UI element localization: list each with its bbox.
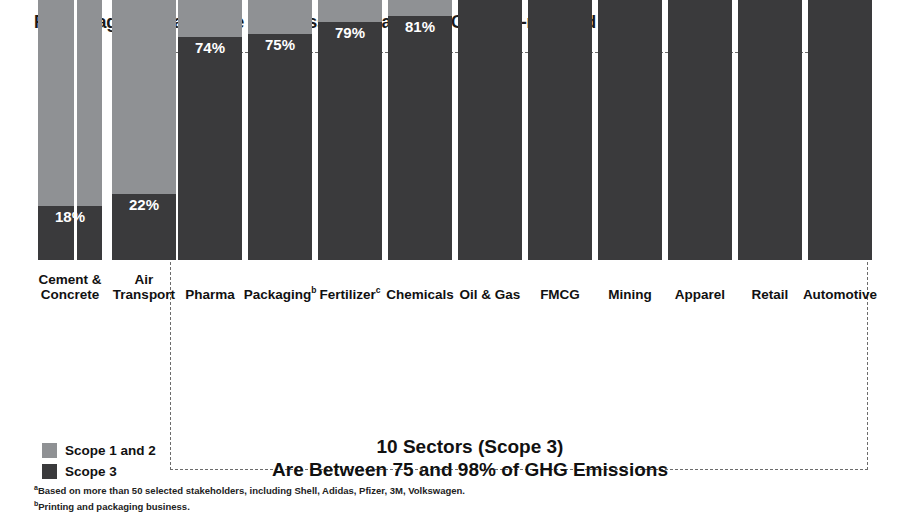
bar-value-label-scope3: 18% (38, 209, 102, 225)
legend-item-scope12: Scope 1 and 2 (42, 443, 156, 458)
bar-value-label-scope3: 75% (248, 37, 312, 53)
axis-category-label: Automotive (794, 287, 886, 302)
bar-segment-scope3: 75% (248, 34, 312, 260)
legend-label-scope12: Scope 1 and 2 (65, 443, 156, 458)
bar-column: 4%96% (738, 0, 802, 260)
bar-value-label-scope3: 92% (458, 0, 522, 2)
bar-segment-scope12: 19% (388, 0, 452, 16)
bar-column: 2%98% (808, 0, 872, 260)
bar-column: 5%95% (668, 0, 732, 260)
bar-column: 21%79% (318, 0, 382, 260)
footnote-b-text: Printing and packaging business. (38, 501, 190, 512)
highlight-annotation: 10 Sectors (Scope 3) Are Between 75 and … (200, 435, 740, 481)
bar-value-label-scope3: 22% (112, 197, 176, 213)
bar-column: 19%81% (388, 0, 452, 260)
bar-stack: 7%93% (528, 0, 592, 260)
legend-item-scope3: Scope 3 (42, 464, 156, 479)
bar-value-label-scope3: 74% (178, 40, 242, 56)
bar-segment-scope3: 74% (178, 37, 242, 260)
bar-segment-scope3: 18% (38, 206, 102, 260)
bar-stack: 19%81% (388, 0, 452, 260)
bar-segment-scope3: 79% (318, 22, 382, 260)
legend-swatch-icon-scope3 (42, 464, 57, 479)
bar-segment-scope3: 95% (668, 0, 732, 260)
bar-column: 7%93% (528, 0, 592, 260)
footnotes: aBased on more than 50 selected stakehol… (34, 483, 864, 515)
bar-column: 82%18% (38, 0, 102, 260)
bar-stack: 82%18% (38, 0, 102, 260)
bar-segment-scope3: 92% (458, 0, 522, 260)
bar-segment-scope12: 82% (38, 0, 102, 206)
bar-column: 26%74% (178, 0, 242, 260)
bar-segment-scope3: 96% (738, 0, 802, 260)
axis-category-label-line1: Air (98, 272, 190, 287)
bar-segment-scope12: 26% (178, 0, 242, 37)
bar-column: 78%22% (112, 0, 176, 260)
bar-stack: 5%95% (668, 0, 732, 260)
bar-seam-artifact (74, 0, 77, 260)
bar-segment-scope3: 95% (598, 0, 662, 260)
annotation-line-2: Are Between 75 and 98% of GHG Emissions (200, 458, 740, 481)
legend-label-scope3: Scope 3 (65, 464, 117, 479)
bar-segment-scope3: 81% (388, 16, 452, 260)
bar-stack: 2%98% (808, 0, 872, 260)
axis-category-label-line1: Automotive (794, 287, 886, 302)
bar-stack: 8%92% (458, 0, 522, 260)
plot-area: 82%18%Cement &Concrete78%22%AirTransport… (0, 0, 899, 400)
annotation-line-1: 10 Sectors (Scope 3) (200, 435, 740, 458)
bar-value-label-scope3: 81% (388, 19, 452, 35)
bar-segment-scope3: 98% (808, 0, 872, 260)
bar-stack: 4%96% (738, 0, 802, 260)
bar-stack: 5%95% (598, 0, 662, 260)
bar-segment-scope3: 93% (528, 0, 592, 260)
bar-stack: 21%79% (318, 0, 382, 260)
bar-value-label-scope3: 79% (318, 25, 382, 41)
chart-root: Percentage of total Scope 1-3 emissions,… (0, 0, 899, 523)
footnote-a-text: Based on more than 50 selected stakehold… (38, 485, 465, 496)
bar-stack: 78%22% (112, 0, 176, 260)
bar-column: 8%92% (458, 0, 522, 260)
bar-segment-scope3: 22% (112, 194, 176, 260)
bar-column: 5%95% (598, 0, 662, 260)
bar-segment-scope12: 21% (318, 0, 382, 22)
footnote-a: aBased on more than 50 selected stakehol… (34, 483, 864, 499)
legend-swatch-icon-scope12 (42, 443, 57, 458)
bar-column: 25%75% (248, 0, 312, 260)
bar-stack: 26%74% (178, 0, 242, 260)
bar-segment-scope12: 25% (248, 0, 312, 34)
bar-stack: 25%75% (248, 0, 312, 260)
footnote-b: bPrinting and packaging business. (34, 499, 864, 515)
bar-segment-scope12: 78% (112, 0, 176, 194)
legend: Scope 1 and 2 Scope 3 (42, 443, 156, 479)
